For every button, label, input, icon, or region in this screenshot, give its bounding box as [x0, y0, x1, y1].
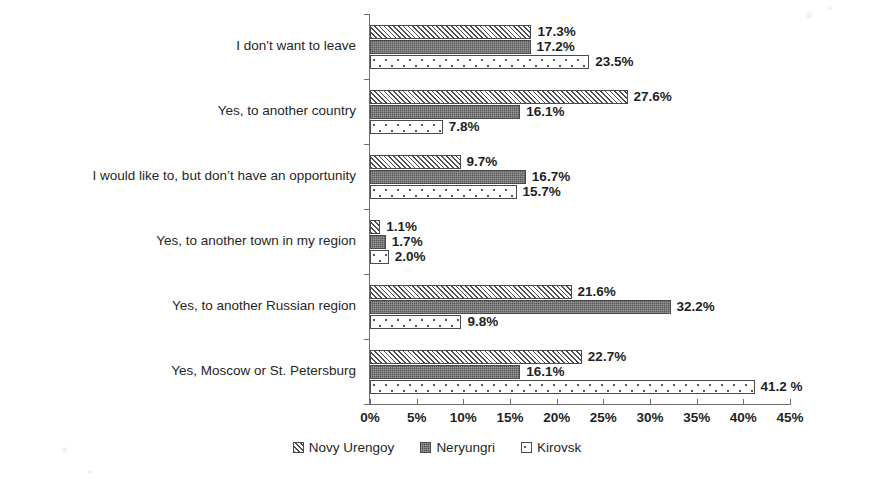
bar-chart: I don't want to leave17.3%17.2%23.5%Yes,… — [0, 0, 874, 481]
bar-value-label: 27.6% — [634, 90, 672, 104]
bar-3 — [370, 185, 517, 199]
bar-value-label: 17.3% — [537, 25, 575, 39]
bar-1 — [370, 285, 572, 299]
x-axis-tick-label: 0% — [347, 410, 393, 425]
x-axis-tick-label: 10% — [440, 410, 486, 425]
bar-value-label: 7.8% — [449, 120, 480, 134]
bar-3 — [370, 55, 589, 69]
bar-1 — [370, 155, 461, 169]
bar-1 — [370, 350, 582, 364]
bar-3 — [370, 380, 755, 394]
bar-value-label: 1.7% — [392, 235, 423, 249]
legend-label: Kirovsk — [537, 440, 581, 455]
category-label: Yes, Moscow or St. Petersburg — [0, 363, 356, 379]
category-row: Yes, to another country27.6%16.1%7.8% — [0, 79, 874, 144]
bar-value-label: 9.7% — [467, 155, 498, 169]
category-label: Yes, to another Russian region — [0, 298, 356, 314]
bar-1 — [370, 90, 628, 104]
category-row: Yes, Moscow or St. Petersburg22.7%16.1%4… — [0, 339, 874, 404]
bar-2 — [370, 300, 671, 314]
dark-square-swatch — [420, 442, 431, 453]
legend-item[interactable]: Novy Urengoy — [293, 440, 395, 455]
x-axis-tick-label: 40% — [720, 410, 766, 425]
legend-item[interactable]: Neryungri — [420, 440, 495, 455]
category-label: I don't want to leave — [0, 38, 356, 54]
bar-value-label: 16.1% — [526, 365, 564, 379]
bar-3 — [370, 120, 443, 134]
scan-speckle — [88, 470, 92, 474]
bar-2 — [370, 235, 386, 249]
dotted-square-swatch — [521, 442, 532, 453]
category-label: Yes, to another town in my region — [0, 233, 356, 249]
hatched-square-swatch — [293, 442, 304, 453]
bar-1 — [370, 25, 531, 39]
category-row: Yes, to another Russian region21.6%32.2%… — [0, 274, 874, 339]
bar-2 — [370, 170, 526, 184]
bar-value-label: 32.2% — [677, 300, 715, 314]
legend-label: Neryungri — [436, 440, 495, 455]
bar-2 — [370, 365, 520, 379]
scan-speckle — [828, 6, 832, 11]
bar-3 — [370, 250, 389, 264]
category-row: Yes, to another town in my region1.1%1.7… — [0, 209, 874, 274]
bar-value-label: 2.0% — [395, 250, 426, 264]
x-axis-line — [369, 404, 791, 405]
category-row: I would like to, but don’t have an oppor… — [0, 144, 874, 209]
legend-label: Novy Urengoy — [309, 440, 395, 455]
bar-2 — [370, 40, 531, 54]
bar-value-label: 22.7% — [588, 350, 626, 364]
x-axis-tick-label: 25% — [580, 410, 626, 425]
bar-value-label: 15.7% — [523, 185, 561, 199]
bar-value-label: 16.1% — [526, 105, 564, 119]
bar-value-label: 16.7% — [532, 170, 570, 184]
category-label: I would like to, but don’t have an oppor… — [0, 168, 356, 184]
bar-1 — [370, 220, 380, 234]
bar-value-label: 17.2% — [537, 40, 575, 54]
x-axis-tick-label: 45% — [767, 410, 813, 425]
legend-item[interactable]: Kirovsk — [521, 440, 581, 455]
bar-value-label: 9.8% — [467, 315, 498, 329]
bar-value-label: 21.6% — [578, 285, 616, 299]
x-axis-tick-label: 15% — [487, 410, 533, 425]
x-axis-tick-label: 20% — [534, 410, 580, 425]
category-row: I don't want to leave17.3%17.2%23.5% — [0, 14, 874, 79]
bar-2 — [370, 105, 520, 119]
x-axis-tick-label: 35% — [674, 410, 720, 425]
bar-value-label: 41.2 % — [761, 380, 803, 394]
x-axis-tick-label: 30% — [627, 410, 673, 425]
bar-value-label: 1.1% — [386, 220, 417, 234]
chart-legend: Novy UrengoyNeryungriKirovsk — [0, 440, 874, 455]
bar-3 — [370, 315, 461, 329]
bar-value-label: 23.5% — [595, 55, 633, 69]
category-label: Yes, to another country — [0, 103, 356, 119]
x-axis-tick-label: 5% — [394, 410, 440, 425]
